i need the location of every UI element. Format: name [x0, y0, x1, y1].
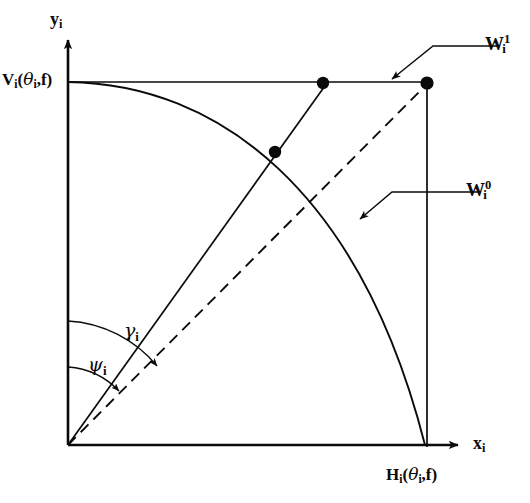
figure-canvas: yi xi Vi(θi,f) Hi(θi,f) W1i W0i γi ψi: [0, 0, 530, 503]
w-upper-leader: [392, 46, 500, 79]
point-at-corner: [420, 76, 433, 89]
axes-group: [68, 40, 458, 445]
w-upper-label: W1i: [485, 33, 506, 56]
angle-arcs-group: [68, 321, 157, 391]
gamma-angle-label: γi: [124, 321, 139, 344]
vertical-intercept-label: Vi(θi,f): [2, 71, 52, 91]
y-axis-label: yi: [50, 10, 62, 31]
gamma-angle-arc: [68, 321, 157, 366]
point-on-arc: [269, 146, 281, 158]
solid-ray: [68, 83, 327, 445]
w-lower-leader: [360, 192, 481, 219]
marked-points-group: [269, 76, 434, 158]
dashed-ray: [68, 83, 428, 445]
diagram-svg: [0, 0, 530, 503]
horizontal-intercept-label: Hi(θi,f): [386, 466, 437, 486]
psi-angle-label: ψi: [88, 355, 107, 378]
w-lower-label: W0i: [466, 179, 487, 202]
x-axis-label: xi: [473, 434, 485, 455]
point-on-top-edge: [317, 77, 329, 89]
